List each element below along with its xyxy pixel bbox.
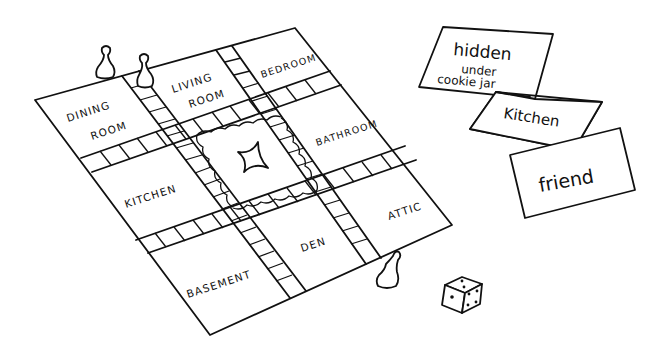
- room-dining-room[interactable]: DINING ROOM: [65, 98, 129, 141]
- clue-card-where[interactable]: hidden under cookie jar: [419, 27, 553, 99]
- room-label: DINING: [65, 98, 112, 123]
- room-label: ATTIC: [386, 200, 423, 222]
- track-vertical-left: [122, 71, 306, 298]
- pawn-1[interactable]: [96, 46, 114, 79]
- board-game-illustration: DINING ROOM LIVING ROOM BEDROOM BATHROOM…: [0, 0, 667, 358]
- pawn-icon: [96, 46, 114, 79]
- room-label: BATHROOM: [314, 117, 379, 147]
- room-label: DEN: [299, 234, 328, 254]
- room-den[interactable]: DEN: [299, 234, 328, 254]
- center-scallop-border: [197, 116, 318, 209]
- room-bedroom[interactable]: BEDROOM: [259, 52, 318, 80]
- die[interactable]: [442, 277, 482, 313]
- room-label: BASEMENT: [185, 268, 253, 300]
- room-bathroom[interactable]: BATHROOM: [314, 117, 379, 147]
- room-label: BEDROOM: [259, 52, 318, 80]
- room-living-room[interactable]: LIVING ROOM: [170, 70, 227, 110]
- room-basement[interactable]: BASEMENT: [185, 268, 253, 300]
- room-label: ROOM: [89, 119, 129, 142]
- room-attic[interactable]: ATTIC: [386, 200, 423, 222]
- room-kitchen[interactable]: KITCHEN: [123, 182, 178, 210]
- center-star-icon: [238, 142, 268, 172]
- room-label: KITCHEN: [123, 182, 178, 210]
- room-label: ROOM: [187, 87, 227, 110]
